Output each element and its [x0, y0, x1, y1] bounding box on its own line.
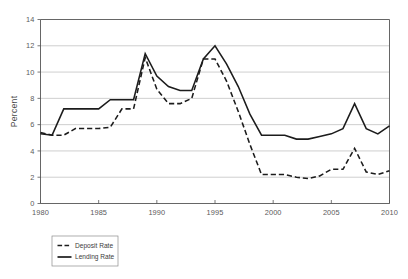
x-tick-label-2000: 2000 — [265, 208, 282, 217]
x-axis-tick-labels: 1980198519901995200020052010 — [32, 208, 398, 217]
y-axis-title: Percent — [9, 95, 19, 127]
y-tick-label-8: 8 — [30, 94, 34, 103]
y-tick-label-14: 14 — [26, 15, 34, 24]
gridlines-group — [41, 46, 390, 177]
legend-frame — [52, 236, 118, 266]
y-axis-title-text: Percent — [9, 95, 19, 127]
y-axis-tick-labels: 02468101214 — [26, 15, 34, 208]
y-tick-label-2: 2 — [30, 173, 34, 182]
chart-legend: Deposit RateLending Rate — [52, 236, 118, 266]
y-tick-label-12: 12 — [26, 41, 34, 50]
legend-label-lending-rate: Lending Rate — [75, 253, 115, 261]
series-line-deposit-rate — [41, 58, 390, 179]
x-tick-label-1985: 1985 — [90, 208, 107, 217]
interest-rates-line-chart: 02468101214 1980198519901995200020052010… — [0, 0, 408, 279]
y-tick-label-10: 10 — [26, 68, 34, 77]
y-tick-label-6: 6 — [30, 120, 34, 129]
y-tick-label-4: 4 — [30, 147, 34, 156]
chart-canvas: 02468101214 1980198519901995200020052010… — [0, 0, 408, 279]
x-axis-tick-marks — [41, 200, 390, 204]
legend-label-deposit-rate: Deposit Rate — [75, 242, 113, 250]
data-series-group — [41, 46, 390, 179]
x-tick-label-1995: 1995 — [207, 208, 224, 217]
x-tick-label-2005: 2005 — [323, 208, 340, 217]
x-tick-label-1980: 1980 — [32, 208, 49, 217]
x-tick-label-1990: 1990 — [148, 208, 165, 217]
y-tick-label-0: 0 — [30, 199, 34, 208]
x-tick-label-2010: 2010 — [381, 208, 398, 217]
